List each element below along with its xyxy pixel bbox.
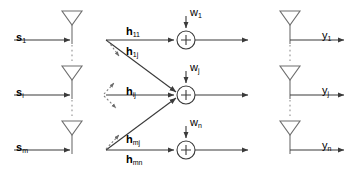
rx-antenna-icon-2 bbox=[280, 66, 300, 80]
channel-label-h1j: h1j bbox=[126, 42, 138, 58]
input-label-si: si bbox=[16, 83, 24, 99]
output-arrows bbox=[290, 40, 344, 150]
fan-dashed-2 bbox=[104, 83, 114, 94]
diagram-canvas: s1 si sm h11 h1j hij hmj hmn w1 wj wn y1… bbox=[0, 0, 352, 170]
noise-label-w1: w1 bbox=[190, 3, 202, 19]
noise-label-wj: wj bbox=[190, 58, 200, 74]
output-label-y1: y1 bbox=[322, 26, 331, 42]
noise-label-wn: wn bbox=[190, 113, 202, 129]
tx-antenna-icon-2 bbox=[62, 66, 82, 80]
output-label-yn: yn bbox=[322, 136, 331, 152]
channel-label-hij: hij bbox=[126, 82, 136, 98]
mimo-block-diagram bbox=[0, 0, 352, 170]
channel-label-h11: h11 bbox=[126, 22, 140, 38]
output-label-yj: yj bbox=[322, 81, 329, 97]
input-label-s1: s1 bbox=[16, 28, 26, 44]
channel-line-hmj bbox=[106, 98, 176, 150]
rx-antenna-group bbox=[280, 11, 300, 154]
rx-antenna-icon-1 bbox=[280, 11, 300, 25]
adder-to-rx-arrows bbox=[195, 40, 248, 150]
fan-dashed-3 bbox=[104, 96, 116, 108]
channel-label-hmj: hmj bbox=[126, 130, 140, 146]
channel-path-group bbox=[106, 40, 176, 150]
rx-antenna-icon-3 bbox=[280, 121, 300, 135]
input-label-sm: sm bbox=[16, 138, 28, 154]
adder-group bbox=[177, 31, 195, 159]
tx-antenna-icon-3 bbox=[62, 121, 82, 135]
tx-antenna-icon-1 bbox=[62, 11, 82, 25]
tx-antenna-group bbox=[62, 11, 82, 154]
channel-line-h1j bbox=[106, 40, 176, 92]
channel-label-hmn: hmn bbox=[126, 150, 142, 166]
